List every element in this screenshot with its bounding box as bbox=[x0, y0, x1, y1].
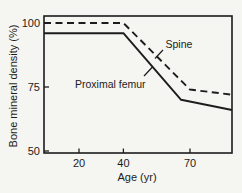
series-line-proximal-femur bbox=[44, 33, 232, 110]
series-label-proximal-femur: Proximal femur bbox=[75, 78, 146, 90]
spine-leader-line bbox=[155, 50, 163, 59]
data-series bbox=[44, 23, 232, 110]
x-tick-label: 70 bbox=[184, 157, 196, 169]
x-tick-label: 40 bbox=[117, 157, 129, 169]
y-axis-title: Bone mineral density (%) bbox=[7, 25, 19, 148]
y-tick-label: 100 bbox=[22, 17, 40, 29]
bone-mineral-density-chart: 2040705075100 Spine Proximal femur Age (… bbox=[0, 0, 242, 193]
x-axis-title: Age (yr) bbox=[117, 171, 156, 183]
y-tick-label: 75 bbox=[28, 81, 40, 93]
x-tick-label: 20 bbox=[73, 157, 85, 169]
chart-canvas: 2040705075100 Spine Proximal femur Age (… bbox=[0, 0, 242, 193]
proximal-femur-leader-line bbox=[144, 67, 153, 76]
y-tick-label: 50 bbox=[28, 145, 40, 157]
series-label-spine: Spine bbox=[166, 38, 193, 50]
